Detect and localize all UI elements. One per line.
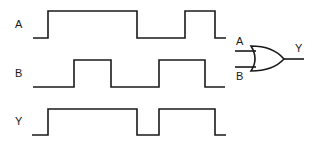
timing-diagram: A B Y A B Y [0, 0, 317, 150]
signal-label-b: B [15, 67, 22, 79]
waveform-y [32, 109, 226, 135]
or-gate-icon: A B Y [235, 35, 304, 82]
waveform-a [33, 11, 226, 38]
signal-label-y: Y [15, 115, 23, 127]
waveform-b [33, 60, 225, 87]
signal-label-a: A [15, 18, 23, 30]
gate-input-a-label: A [236, 35, 244, 47]
gate-input-b-label: B [236, 70, 243, 82]
gate-output-label: Y [295, 42, 303, 54]
